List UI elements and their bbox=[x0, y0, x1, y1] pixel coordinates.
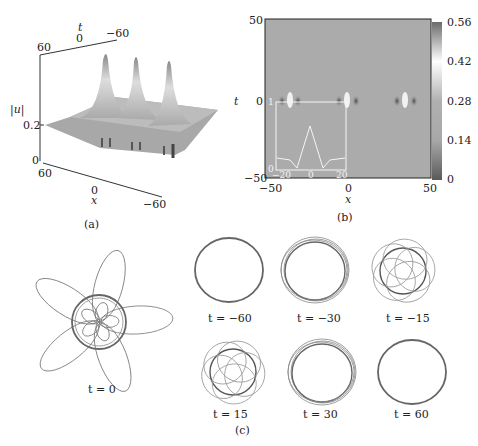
label-t60: t = 60 bbox=[394, 409, 429, 420]
panel-c-trajectories bbox=[0, 0, 478, 446]
label-t0: t = 0 bbox=[88, 384, 116, 395]
label-t-neg60: t = −60 bbox=[208, 313, 252, 324]
caption-c: (c) bbox=[235, 424, 250, 437]
flower-t0 bbox=[29, 247, 173, 396]
label-t-neg15: t = −15 bbox=[386, 313, 430, 324]
circle-t-neg30 bbox=[281, 237, 349, 303]
circle-t-60 bbox=[378, 340, 446, 404]
label-t30: t = 30 bbox=[303, 409, 338, 420]
circle-t-15 bbox=[195, 333, 269, 406]
circle-t-neg15 bbox=[364, 236, 437, 310]
label-t-neg30: t = −30 bbox=[297, 313, 341, 324]
circle-t-neg60 bbox=[195, 238, 263, 302]
label-t15: t = 15 bbox=[213, 409, 248, 420]
circle-t-30 bbox=[288, 339, 356, 405]
